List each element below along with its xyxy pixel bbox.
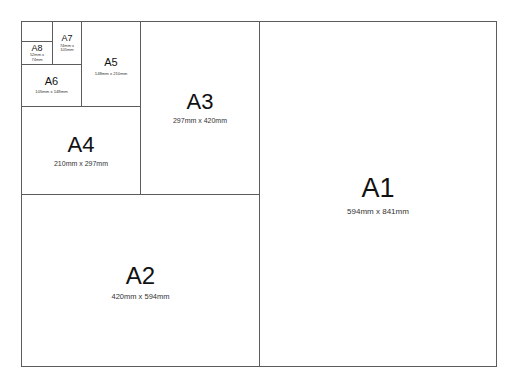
sheet-a4-label: A4 — [68, 134, 95, 156]
sheet-a2-dimensions: 420mm x 594mm — [112, 293, 170, 301]
sheet-a5: A5 148mm x 210mm — [81, 21, 141, 107]
sheet-a4-dimensions: 210mm x 297mm — [54, 160, 108, 168]
sheet-a7-label: A7 — [61, 34, 72, 43]
sheet-a1-dimensions: 594mm x 841mm — [347, 208, 409, 217]
sheet-a3-dimensions: 297mm x 420mm — [173, 117, 227, 125]
sheet-a1-label: A1 — [361, 175, 394, 202]
sheet-a1: A1 594mm x 841mm — [259, 21, 497, 367]
sheet-a6-label: A6 — [45, 76, 58, 87]
sheet-a3: A3 297mm x 420mm — [140, 21, 260, 195]
sheet-a5-label: A5 — [104, 57, 117, 68]
sheet-a7: A7 74mm x 105mm — [52, 21, 82, 65]
sheet-a8: A8 52mm x 74mm — [21, 41, 53, 65]
sheet-a4: A4 210mm x 297mm — [21, 106, 141, 195]
sheet-a8-dimensions-line2: 74mm — [31, 58, 42, 62]
sheet-a5-dimensions: 148mm x 210mm — [95, 72, 127, 77]
sheet-a2: A2 420mm x 594mm — [21, 194, 260, 367]
sheet-blank-cell — [21, 21, 53, 42]
sheet-a2-label: A2 — [126, 264, 155, 288]
sheet-a6-dimensions: 105mm x 148mm — [35, 90, 67, 95]
sheet-a6: A6 105mm x 148mm — [21, 64, 82, 107]
sheet-a7-dimensions-line2: 105mm — [60, 48, 73, 52]
sheet-a3-label: A3 — [187, 91, 214, 113]
